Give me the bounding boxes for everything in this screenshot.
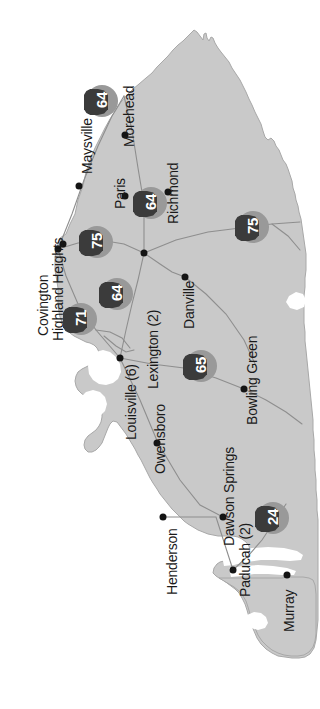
interstate-shield-icon[interactable]: 71 xyxy=(63,303,97,337)
kentucky-map: CovingtonHighland HeightsMaysvilleMorehe… xyxy=(0,0,320,709)
city-label: Richmond xyxy=(166,163,180,224)
shield-number: 65 xyxy=(183,350,217,384)
city-label: Lexington (2) xyxy=(146,310,160,389)
city-dot[interactable] xyxy=(160,514,167,521)
shield-number: 71 xyxy=(63,303,97,337)
city-dot[interactable] xyxy=(230,567,237,574)
interstate-shield-icon[interactable]: 75 xyxy=(235,211,269,245)
city-label: Bowling Green xyxy=(245,336,259,425)
shield-number: 24 xyxy=(255,502,289,536)
city-label: Maysville xyxy=(80,118,94,174)
interstate-shield-icon[interactable]: 24 xyxy=(255,502,289,536)
map-overlay: CovingtonHighland HeightsMaysvilleMorehe… xyxy=(0,0,320,709)
city-label: Louisville (6) xyxy=(124,364,138,440)
interstate-shield-icon[interactable]: 65 xyxy=(183,350,217,384)
interstate-shield-icon[interactable]: 64 xyxy=(133,187,167,221)
shield-number: 75 xyxy=(235,211,269,245)
city-dot[interactable] xyxy=(284,572,291,579)
interstate-shield-icon[interactable]: 64 xyxy=(84,85,118,119)
shield-number: 64 xyxy=(99,278,133,312)
city-dot[interactable] xyxy=(141,250,148,257)
shield-number: 75 xyxy=(79,226,113,260)
city-label: Owensboro xyxy=(153,404,167,474)
interstate-shield-icon[interactable]: 64 xyxy=(99,278,133,312)
shield-number: 64 xyxy=(133,187,167,221)
city-label: Paris xyxy=(113,178,127,209)
city-dot[interactable] xyxy=(182,274,189,281)
city-label: Henderson xyxy=(165,528,179,595)
city-dot[interactable] xyxy=(117,355,124,362)
interstate-shield-icon[interactable]: 75 xyxy=(79,226,113,260)
city-label: Morehead xyxy=(122,86,136,147)
shield-number: 64 xyxy=(84,85,118,119)
city-label: Murray xyxy=(282,590,296,632)
city-dot[interactable] xyxy=(76,183,83,190)
city-label: Paducah (2) xyxy=(238,523,252,597)
city-label: Covington xyxy=(36,275,50,336)
city-label: Dawson Springs xyxy=(222,447,236,546)
city-label: Danville xyxy=(182,281,196,329)
